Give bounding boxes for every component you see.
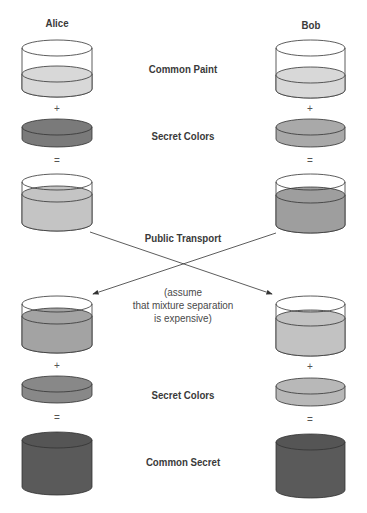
public-transport-label: Public Transport (139, 232, 227, 244)
secret-colors-label-2: Secret Colors (139, 389, 227, 401)
common-paint-label: Common Paint (139, 63, 227, 75)
bob-mixture-cylinder (276, 174, 345, 233)
note-line-3: is expensive) (125, 312, 242, 325)
alice-equals-1: = (47, 155, 67, 166)
assumption-note: (assume that mixture separation is expen… (125, 286, 242, 325)
alice-received-cylinder (22, 296, 92, 353)
alice-common-paint-cylinder (22, 40, 92, 97)
bob-equals-1: = (300, 155, 320, 166)
secret-colors-label: Secret Colors (139, 130, 227, 142)
alice-common-secret-cylinder (22, 432, 92, 495)
common-secret-label: Common Secret (139, 456, 227, 468)
alice-plus-1: + (47, 103, 67, 114)
alice-label: Alice (39, 17, 74, 29)
alice-secret-color-disc (22, 119, 92, 147)
bob-secret-color-disc-2 (276, 378, 345, 406)
bob-common-secret-cylinder (276, 434, 345, 498)
diagram-canvas (0, 0, 367, 513)
bob-label: Bob (293, 19, 328, 31)
alice-equals-2: = (47, 412, 67, 423)
bob-plus-1: + (300, 103, 320, 114)
bob-secret-color-disc (276, 119, 345, 147)
bob-equals-2: = (300, 414, 320, 425)
alice-plus-2: + (47, 360, 67, 371)
bob-common-paint-cylinder (276, 40, 345, 98)
bob-received-cylinder (276, 296, 345, 356)
note-line-2: that mixture separation (125, 299, 242, 312)
alice-mixture-cylinder (22, 174, 92, 231)
bob-plus-2: + (300, 361, 320, 372)
alice-secret-color-disc-2 (22, 376, 92, 403)
note-line-1: (assume (125, 286, 242, 299)
